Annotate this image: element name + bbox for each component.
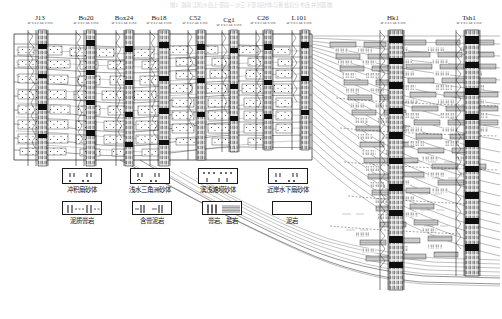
legend-swatch-alluvial-fan-sand xyxy=(62,168,102,184)
legend-swatch-gypsiferous-mudstone xyxy=(132,201,172,215)
well-name: Tsh1 xyxy=(446,14,492,22)
well-name: J13 xyxy=(18,14,62,22)
well-header-j13[interactable]: J13 SP 0 0.2 GR 0 150 xyxy=(18,14,62,25)
well-curve-scale: SP 0 0.2 GR 0 150 xyxy=(446,22,492,25)
legend-label-mudstone: 泥岩 xyxy=(274,217,310,225)
well-name: L101 xyxy=(279,14,319,22)
legend-label-shallow-delta-sand: 浅水三角洲砂体 xyxy=(114,186,186,194)
well-curve-scale: SP 0 0.2 GR 0 150 xyxy=(18,22,62,25)
well-name: C52 xyxy=(175,14,215,22)
legend-swatch-nearshore-subaqueous-fan-sand xyxy=(268,168,308,184)
legend-label-gypsum-salt-rock: 膏岩、盐岩 xyxy=(194,217,252,225)
legend-label-gypsiferous-mudstone: 含膏泥岩 xyxy=(126,217,178,225)
well-curve-scale: SP 0 0.2 GR 0 150 xyxy=(279,22,319,25)
well-name: Hk1 xyxy=(370,14,416,22)
legend-swatch-gypsum-salt-rock xyxy=(202,201,242,215)
legend-row-2: 泥质膏岩 含膏泥岩 膏岩、盐岩 泥岩 xyxy=(0,201,340,229)
well-header-l101[interactable]: L101 SP 0 0.2 GR 0 150 xyxy=(279,14,319,25)
well-header-tsh1[interactable]: Tsh1 SP 0 0.2 GR 0 150 xyxy=(446,14,492,25)
well-curve-scale: SP 0 0.2 GR 0 150 xyxy=(370,22,416,25)
well-header-c52[interactable]: C52 SP 0 0.2 GR 0 150 xyxy=(175,14,215,25)
legend-row-1: 冲积扇砂体 浅水三角洲砂体 滨浅滩坝砂体 xyxy=(0,168,340,196)
well-header-cg1[interactable]: Cg1 SP 0 0.2 GR 0 150 xyxy=(210,16,248,27)
legend-swatch-mudstone xyxy=(272,201,312,215)
well-curve-scale: SP 0 0.2 GR 0 150 xyxy=(175,22,215,25)
legend-swatch-beach-bar-sand xyxy=(198,168,238,184)
well-name: C26 xyxy=(244,14,282,22)
well-name: Cg1 xyxy=(210,16,248,24)
legend-swatch-shallow-delta-sand xyxy=(130,168,170,184)
legend-label-beach-bar-sand: 滨浅滩坝砂体 xyxy=(182,186,254,194)
well-curve-scale: SP 0 0.2 GR 0 150 xyxy=(244,22,282,25)
legend-label-nearshore-subaqueous-fan-sand: 近岸水下扇砂体 xyxy=(250,186,326,194)
figure-canvas: 图1 渤南洼陷沙四上亚段—沙三下亚段砂体与膏盐岩分布连井剖面图 xyxy=(0,0,502,319)
well-header-c26[interactable]: C26 SP 0 0.2 GR 0 150 xyxy=(244,14,282,25)
legend-label-argillaceous-gypsum: 泥质膏岩 xyxy=(56,217,108,225)
legend-swatch-argillaceous-gypsum xyxy=(62,201,102,215)
legend-label-alluvial-fan-sand: 冲积扇砂体 xyxy=(52,186,112,194)
well-header-hk1[interactable]: Hk1 SP 0 0.2 GR 0 150 xyxy=(370,14,416,25)
well-curve-scale: SP 0 0.2 GR 0 150 xyxy=(210,24,248,27)
cross-section-drawing xyxy=(0,0,502,319)
